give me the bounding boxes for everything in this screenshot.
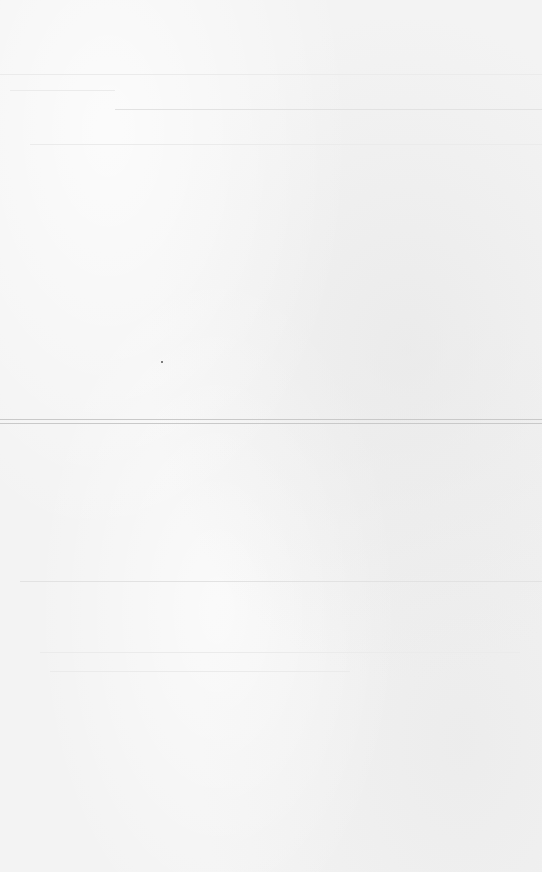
ruled-line (0, 423, 542, 424)
ruled-line (50, 671, 350, 672)
speck (161, 361, 163, 363)
ruled-line (20, 581, 542, 582)
ruled-line (30, 144, 542, 145)
ruled-line (0, 419, 542, 420)
ruled-line (0, 74, 542, 75)
ruled-line (10, 90, 115, 91)
ruled-line (40, 652, 520, 653)
ruled-line (115, 109, 542, 110)
